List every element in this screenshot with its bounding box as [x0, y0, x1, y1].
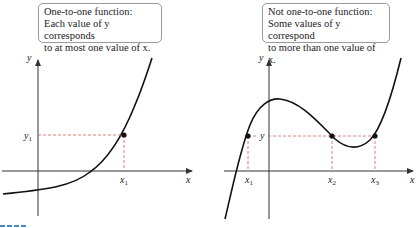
left-caption-box: One-to-one function: Each value of y cor…: [38, 3, 162, 43]
diagram-canvas: y x y1 x1 y y x x1 x2 x3 O: [0, 0, 419, 228]
left-caption-line-2: Each value of y corresponds: [44, 18, 156, 42]
right-caption-line-2: Some values of y correspond: [268, 18, 384, 42]
right-x-axis-label: x: [409, 174, 415, 185]
left-x-axis-label: x: [185, 174, 191, 185]
left-graph: y x y1 x1: [2, 52, 192, 216]
right-y-label: y: [259, 130, 265, 141]
right-x1-label: x1: [244, 174, 253, 187]
right-point-1: [245, 133, 250, 138]
right-graph: y y x x1 x2 x3: [224, 52, 415, 219]
right-y-axis-label: y: [258, 52, 264, 63]
right-caption-box: Not one-to-one function: Some values of …: [262, 3, 390, 43]
left-curve: [3, 58, 152, 194]
right-caption-line-1: Not one-to-one function:: [268, 6, 384, 18]
left-caption-line-1: One-to-one function:: [44, 6, 156, 18]
left-point: [121, 132, 126, 137]
left-y-axis-label: y: [26, 52, 32, 63]
right-point-3: [372, 133, 377, 138]
left-y1-label: y1: [23, 130, 32, 143]
left-x1-label: x1: [119, 174, 128, 187]
right-x3-label: x3: [370, 174, 379, 187]
left-caption-line-3: to at most one value of x.: [44, 42, 156, 54]
right-caption-line-3: to more than one value of x.: [268, 42, 384, 66]
right-x2-label: x2: [327, 174, 336, 187]
right-point-2: [329, 133, 334, 138]
